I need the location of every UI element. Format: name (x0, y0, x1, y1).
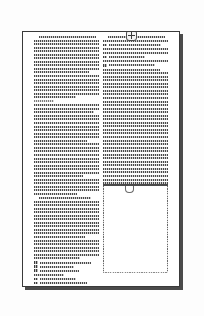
figure-body (103, 186, 168, 275)
text-line (34, 225, 99, 227)
bullet-list (103, 64, 168, 67)
list-marker (103, 44, 107, 47)
text-line (103, 168, 168, 170)
text-line (34, 43, 99, 45)
list-marker (34, 269, 38, 272)
text-line (103, 93, 168, 95)
text-column-left (34, 36, 99, 287)
text-line (103, 101, 168, 103)
paragraph (103, 60, 168, 62)
text-line (34, 126, 99, 128)
text-line (103, 72, 168, 74)
badge-cross-horizontal (128, 35, 135, 37)
text-line (103, 143, 168, 145)
paragraph (34, 286, 99, 287)
text-line (34, 64, 99, 66)
text-line (34, 96, 76, 98)
text-line (34, 40, 99, 42)
text-line (34, 57, 99, 59)
text-line (34, 82, 99, 84)
text-line (34, 129, 99, 131)
list-item-text (40, 270, 79, 272)
text-line (34, 111, 94, 113)
text-line (34, 75, 99, 77)
text-line (34, 133, 99, 135)
list-item-text (109, 44, 161, 46)
list-marker (34, 278, 38, 281)
paragraph (34, 274, 99, 276)
text-line (34, 286, 52, 287)
text-line (103, 60, 168, 62)
text-line (34, 165, 99, 167)
list-item-text (40, 282, 87, 284)
text-line (103, 115, 168, 117)
bullet-list (103, 56, 168, 59)
text-line (34, 68, 99, 70)
text-line (34, 175, 83, 177)
bullet-list (103, 44, 168, 47)
text-line (103, 108, 168, 110)
bullet-list (34, 278, 99, 285)
text-line (34, 257, 80, 259)
list-marker (103, 64, 107, 67)
list-marker (103, 56, 107, 59)
text-line (34, 143, 99, 145)
text-line (34, 179, 99, 181)
figure-left-edge (103, 186, 104, 272)
text-line (34, 89, 99, 91)
text-line (34, 161, 99, 163)
list-marker (34, 265, 38, 268)
list-item-text (40, 278, 76, 280)
paragraph (34, 36, 99, 98)
text-line (34, 243, 99, 245)
text-line (34, 168, 99, 170)
text-line (34, 193, 77, 195)
text-line (34, 254, 99, 256)
text-line (34, 61, 99, 63)
text-line (34, 250, 99, 252)
text-line (34, 204, 99, 206)
text-line (34, 215, 99, 217)
text-line (34, 201, 99, 203)
list-item-text (109, 56, 145, 58)
text-line (103, 179, 168, 181)
text-line (103, 111, 168, 113)
text-line (103, 90, 168, 92)
text-line (34, 79, 99, 81)
figure-tab-bracket (125, 186, 134, 193)
list-item-text (40, 262, 91, 264)
text-line (103, 157, 168, 159)
figure-right-edge (167, 186, 168, 272)
list-item (34, 261, 99, 264)
list-item (34, 265, 99, 268)
text-line (39, 197, 91, 199)
list-item (34, 269, 99, 272)
text-line (34, 122, 99, 124)
text-line (34, 222, 99, 224)
text-line (103, 150, 168, 152)
text-line (34, 140, 87, 142)
document-thumbnail-viewer[interactable] (0, 0, 204, 316)
text-line (103, 104, 168, 106)
plus-badge-icon (126, 31, 137, 41)
list-item (34, 278, 99, 281)
text-line (103, 52, 168, 54)
text-line (103, 161, 168, 163)
text-line (34, 240, 99, 242)
text-line (34, 71, 89, 73)
text-line (34, 182, 99, 184)
figure-plate[interactable] (103, 184, 168, 276)
text-line (34, 86, 99, 88)
list-item (34, 282, 99, 285)
text-line (103, 76, 168, 78)
text-line (103, 118, 168, 120)
text-line (34, 150, 99, 152)
text-line (34, 104, 99, 106)
document-page[interactable] (22, 31, 180, 287)
paragraph (103, 48, 168, 54)
text-line (34, 158, 99, 160)
list-item (103, 44, 168, 47)
text-line (103, 79, 168, 81)
text-line (34, 247, 99, 249)
text-line (103, 147, 168, 149)
